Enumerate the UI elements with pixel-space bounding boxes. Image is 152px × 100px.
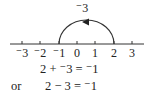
tick-label: 2 [111, 46, 117, 60]
tick-label: 3 [129, 46, 135, 60]
tick-label: ⁻2 [34, 46, 46, 60]
tick-label: ⁻3 [16, 46, 28, 60]
tick-label: 1 [92, 46, 98, 60]
equation-subtraction: 2 − 3 = ⁻1 [45, 79, 97, 93]
arc-label: ⁻3 [76, 1, 88, 15]
or-label: or [11, 79, 21, 93]
tick-label: 0 [74, 46, 80, 60]
equation-addition: 2 + ⁻3 = ⁻1 [40, 62, 99, 76]
tick-label: ⁻1 [53, 46, 65, 60]
